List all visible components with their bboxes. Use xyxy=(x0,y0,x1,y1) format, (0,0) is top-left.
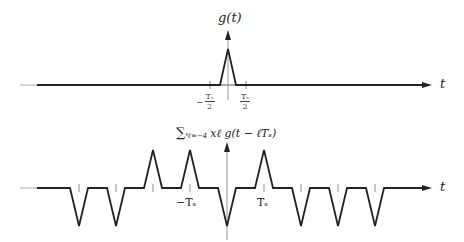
fraction-numerator: Tₛ xyxy=(240,92,250,102)
fraction: Tₛ 2 xyxy=(240,92,250,111)
bottom-y-arrow-icon xyxy=(224,142,230,152)
g-pulse xyxy=(37,49,424,85)
top-y-arrow-icon xyxy=(225,30,231,40)
top-plot xyxy=(20,30,432,100)
fraction-denominator: 2 xyxy=(207,102,212,111)
bottom-y-label: ∑ ⁴ℓ=−4 xℓ g(t − ℓTₛ) xyxy=(176,125,276,140)
bottom-tick-pos-label: Tₛ xyxy=(257,196,268,209)
bottom-x-arrow-icon xyxy=(422,185,432,191)
sum-symbol: ∑ xyxy=(176,125,185,140)
minus-sign: − xyxy=(196,97,204,107)
bottom-x-label: t xyxy=(440,179,445,194)
sum-body: xℓ g(t − ℓTₛ) xyxy=(210,127,276,140)
top-y-label: g(t) xyxy=(218,10,242,25)
fraction: Tₛ 2 xyxy=(205,92,215,111)
top-x-label: t xyxy=(440,76,445,91)
fraction-denominator: 2 xyxy=(242,102,247,111)
sum-signal xyxy=(37,150,424,226)
bottom-plot xyxy=(20,142,432,240)
bottom-tick-neg-label: −Tₛ xyxy=(176,196,196,209)
diagram-canvas xyxy=(0,0,464,242)
top-tick-left-label: − Tₛ 2 xyxy=(196,92,215,111)
fraction-numerator: Tₛ xyxy=(205,92,215,102)
top-tick-right-label: Tₛ 2 xyxy=(240,92,250,111)
sum-limits: ⁴ℓ=−4 xyxy=(185,132,207,140)
